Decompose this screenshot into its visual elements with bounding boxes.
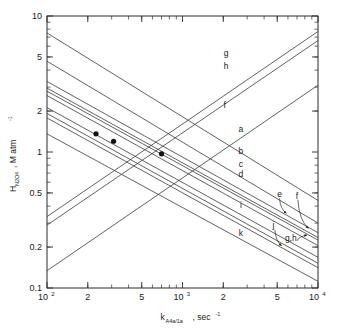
y-axis-tick-labels: 105210.50.20.1 — [29, 11, 42, 293]
data-line-f — [47, 85, 318, 271]
data-lines — [47, 31, 318, 281]
x-tick-label: 2 — [85, 292, 90, 302]
x-tick-label: 2 — [221, 292, 226, 302]
curve-label-b: b — [239, 146, 244, 156]
data-marker-2 — [111, 139, 116, 144]
plot-frame — [47, 16, 318, 288]
y-axis-title: HN2O4, M atm-1 — [7, 116, 20, 192]
x-axis-title-exponent: -1 — [216, 311, 221, 317]
y-tick-label: 0.2 — [29, 242, 42, 252]
x-tick-label: 5 — [275, 292, 280, 302]
x-tick-label-group: 103 — [173, 291, 190, 302]
curve-label-gh: g,h — [285, 233, 297, 243]
x-tick-label-group: 104 — [309, 291, 326, 302]
y-axis-title-subscript: N2O4 — [14, 172, 20, 186]
curve-label-c: c — [239, 159, 244, 169]
y-axis-title-rest: , M atm — [8, 140, 18, 168]
curve-label-k: k — [239, 228, 244, 238]
curve-label-d: d — [239, 169, 244, 179]
x-tick-label-exponent: 2 — [51, 291, 55, 297]
x-tick-label-exponent: 3 — [187, 291, 191, 297]
x-axis-ticks — [47, 16, 318, 288]
x-tick-label: 10 — [173, 292, 183, 302]
data-line-d — [47, 88, 318, 237]
y-tick-label: 10 — [32, 11, 42, 21]
y-tick-label: 5 — [37, 52, 42, 62]
x-tick-label-group: 5 — [139, 292, 144, 302]
data-line-c — [47, 81, 318, 232]
data-line-e — [47, 91, 318, 240]
figure-container: ghfabcdefijg,hk 1022510325104 105210.50.… — [0, 0, 337, 329]
data-marker-3 — [159, 151, 164, 156]
curve-labels: ghfabcdefijg,hk — [224, 48, 299, 243]
x-axis-title: kA4a/1a, sec-1 — [161, 311, 221, 324]
annotation-leader-gh — [297, 235, 307, 241]
data-line-i — [47, 108, 318, 258]
x-tick-label: 5 — [139, 292, 144, 302]
annotation-leader-j — [275, 230, 282, 246]
y-tick-label: 1 — [37, 147, 42, 157]
data-marker-1 — [93, 131, 98, 136]
log-log-chart: ghfabcdefijg,hk 1022510325104 105210.50.… — [0, 0, 337, 329]
x-axis-tick-labels: 1022510325104 — [38, 291, 326, 302]
curve-label-f: f — [224, 100, 227, 110]
data-line-a — [47, 33, 318, 201]
x-axis-title-subscript: A4a/1a — [166, 318, 184, 324]
curve-label-g: g — [224, 48, 229, 58]
y-axis-title-exponent: -1 — [7, 116, 13, 121]
x-tick-label-group: 2 — [221, 292, 226, 302]
y-tick-label: 0.5 — [29, 188, 42, 198]
x-tick-label-group: 5 — [275, 292, 280, 302]
curve-label-i: i — [240, 200, 242, 210]
curve-label-j: j — [272, 220, 275, 230]
curve-label-a: a — [239, 124, 244, 134]
x-tick-label: 10 — [309, 292, 319, 302]
x-tick-label-exponent: 4 — [322, 291, 326, 297]
data-line-k — [47, 134, 318, 281]
curve-label-h: h — [224, 61, 229, 71]
x-axis-title-rest: , sec — [193, 312, 212, 322]
y-tick-label: 0.1 — [29, 283, 42, 293]
curve-label-e: e — [277, 189, 282, 199]
y-tick-label: 2 — [37, 106, 42, 116]
x-tick-label-group: 2 — [85, 292, 90, 302]
data-line-f2 — [47, 96, 318, 246]
y-axis-ticks — [47, 16, 318, 288]
curve-label-f2: f — [296, 191, 299, 201]
x-tick-label: 10 — [38, 292, 48, 302]
